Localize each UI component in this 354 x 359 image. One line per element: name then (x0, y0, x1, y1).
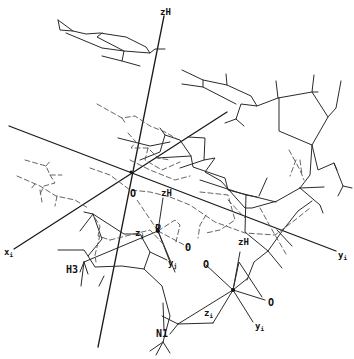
xi-axis (14, 112, 227, 249)
H3-atom-label: H3 (66, 264, 78, 275)
phosphate-2-yi-label: yi (255, 321, 264, 332)
phosphorus-2-atom (231, 288, 235, 292)
N1-atom-label: N1 (156, 328, 168, 339)
phosphate-1 (80, 198, 188, 286)
xi-axis-label: xi (4, 247, 13, 258)
phosphate-1-yj-label: yj (168, 258, 177, 270)
phosphate-1-P-label: P (155, 223, 161, 234)
phosphate-2 (162, 252, 265, 334)
origin-point (130, 171, 133, 174)
zH-axis-label: zH (160, 7, 171, 17)
phosphate-1-zH-label: zH (161, 188, 172, 198)
upper-ring-fragment (58, 20, 165, 66)
phosphate-2-right-oxygen-label: O (268, 297, 274, 308)
yi-axis-label: yi (338, 250, 347, 261)
phosphate-2-zi-label: zi (204, 308, 213, 319)
dashed-back-molecule (17, 104, 310, 262)
phosphate-2-left-oxygen-label: O (203, 259, 209, 270)
phosphate-1-oxygen-label: O (185, 242, 191, 253)
labels: zH xi yi O zH P zj yj O H3 N1 zH O O zi … (4, 7, 347, 339)
yi-axis (9, 126, 336, 251)
origin-oxygen-label: O (130, 188, 136, 199)
molecular-diagram: zH xi yi O zH P zj yj O H3 N1 zH O O zi … (0, 0, 354, 359)
phosphate-2-zH-label: zH (238, 237, 249, 247)
right-ring-fragment (182, 70, 352, 213)
axes (9, 16, 336, 347)
phosphate-1-zj-label: zj (135, 228, 144, 240)
